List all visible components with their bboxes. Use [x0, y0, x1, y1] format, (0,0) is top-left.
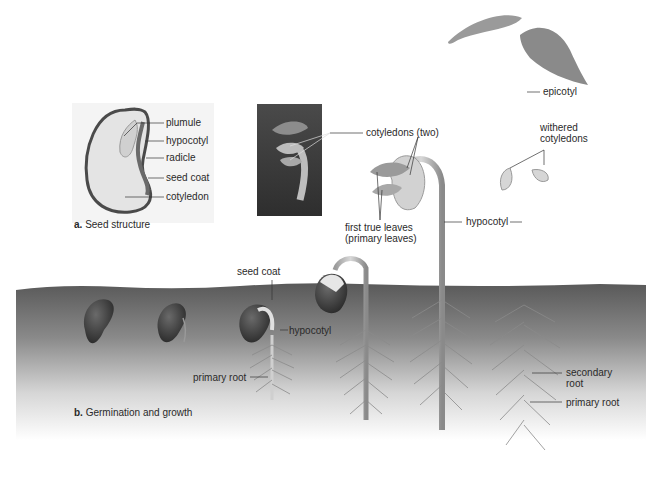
label-hypocotyl-small: hypocotyl	[289, 325, 331, 336]
label-primary-root-small: primary root	[193, 372, 246, 383]
label-cotyledon: cotyledon	[166, 191, 209, 202]
label-seed-coat-sprout: seed coat	[237, 266, 280, 277]
label-secondary: secondary	[566, 367, 612, 378]
label-hypocotyl-seed: hypocotyl	[166, 135, 208, 146]
seedling-photo	[257, 104, 363, 216]
caption-a-letter: a.	[74, 219, 82, 230]
label-withered-cotyledons: cotyledons	[540, 133, 588, 144]
germination-diagram: plumule hypocotyl radicle seed coat coty…	[0, 0, 665, 490]
caption-a: a. Seed structure	[74, 219, 150, 230]
label-primary-leaves: (primary leaves)	[345, 233, 417, 244]
label-hypocotyl-large: hypocotyl	[466, 216, 508, 227]
label-cotyledons-two: cotyledons (two)	[366, 127, 439, 138]
label-seed-coat-seed: seed coat	[166, 172, 209, 183]
caption-b-text: Germination and growth	[86, 407, 193, 418]
caption-b: b. Germination and growth	[74, 407, 192, 418]
label-plumule: plumule	[166, 117, 201, 128]
label-secondary-root: root	[566, 378, 583, 389]
label-withered: withered	[540, 122, 578, 133]
label-first-true-leaves: first true leaves	[345, 222, 413, 233]
caption-b-letter: b.	[74, 407, 83, 418]
label-epicotyl: epicotyl	[543, 86, 577, 97]
caption-a-text: Seed structure	[85, 219, 150, 230]
label-primary-root-large: primary root	[566, 397, 619, 408]
label-radicle: radicle	[166, 152, 195, 163]
